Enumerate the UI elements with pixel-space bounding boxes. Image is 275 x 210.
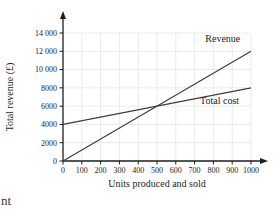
y-tick-label: 14 000 [35, 29, 57, 38]
x-tick-label: 100 [76, 166, 88, 175]
x-tick-label: 500 [151, 166, 163, 175]
x-tick-label: 200 [95, 166, 107, 175]
y-axis-title: Total revenue (£) [4, 63, 16, 132]
x-tick-label: 900 [226, 166, 238, 175]
x-tick-label: 1000 [243, 166, 259, 175]
revenue-label: Revenue [205, 33, 241, 44]
x-tick-label: 0 [61, 166, 65, 175]
chart-svg: 0200040006000800010 00012 00014 00001002… [0, 0, 275, 210]
x-tick-label: 600 [170, 166, 182, 175]
y-tick-label: 2000 [41, 139, 57, 148]
x-axis-title: Units produced and sold [108, 178, 206, 189]
x-tick-label: 700 [189, 166, 201, 175]
x-tick-label: 300 [113, 166, 125, 175]
x-tick-label: 800 [207, 166, 219, 175]
y-tick-label: 12 000 [35, 47, 57, 56]
y-tick-label: 6000 [41, 102, 57, 111]
x-axis-arrow-icon [260, 158, 268, 164]
cropped-text-fragment: nt [1, 194, 11, 207]
y-tick-label: 10 000 [35, 65, 57, 74]
y-tick-label: 0 [53, 157, 57, 166]
total-cost-label: Total cost [200, 95, 239, 106]
break-even-chart: 0200040006000800010 00012 00014 00001002… [0, 0, 275, 210]
y-tick-label: 4000 [41, 120, 57, 129]
y-tick-label: 8000 [41, 84, 57, 93]
x-tick-label: 400 [132, 166, 144, 175]
y-axis-arrow-icon [60, 11, 66, 19]
